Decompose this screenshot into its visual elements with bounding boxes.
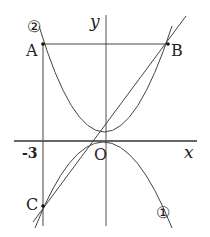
curve-2-label: ② xyxy=(27,17,41,36)
point-b-label: B xyxy=(171,41,183,60)
point-a-dot xyxy=(41,42,45,46)
x-axis-label: x xyxy=(184,142,194,162)
point-b-dot xyxy=(166,42,170,46)
point-a-label: A xyxy=(25,41,38,60)
curve-1-label: ① xyxy=(156,203,170,222)
coordinate-diagram: y x O A B C -3 ② ① xyxy=(0,0,210,237)
point-c-dot xyxy=(41,204,45,208)
point-c-label: C xyxy=(26,195,38,214)
origin-label: O xyxy=(94,145,107,164)
line-cob xyxy=(33,16,186,222)
y-axis-label: y xyxy=(89,11,100,31)
tick-neg3-label: -3 xyxy=(22,145,38,161)
